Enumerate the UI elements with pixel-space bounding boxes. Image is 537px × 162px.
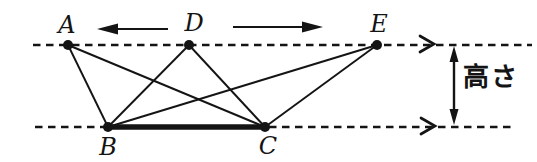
edge-DC [189, 45, 265, 127]
point-label-A: A [56, 11, 75, 39]
diagram-canvas: ADEBC [0, 0, 537, 162]
height-arrowhead-top [450, 46, 459, 62]
edge-AC [68, 45, 265, 127]
height-label: 高さ [463, 64, 519, 90]
edge-EC [265, 45, 377, 127]
point-label-E: E [369, 10, 388, 38]
point-label-C: C [259, 132, 277, 160]
point-label-B: B [98, 133, 117, 161]
point-dot-C [260, 122, 270, 132]
point-dot-B [103, 122, 113, 132]
point-dot-D [184, 40, 194, 50]
point-dot-A [63, 40, 73, 50]
move-left-arrowhead [97, 24, 118, 35]
point-label-D: D [183, 9, 203, 37]
point-dot-E [372, 40, 382, 50]
height-arrowhead-bottom [450, 109, 459, 125]
triangle-height-diagram: ADEBC 高さ [0, 0, 537, 162]
edge-AB [68, 45, 108, 127]
move-right-arrowhead [302, 22, 323, 33]
